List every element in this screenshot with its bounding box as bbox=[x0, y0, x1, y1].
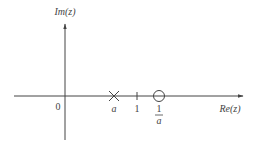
unit-tick-label: 1 bbox=[135, 103, 140, 114]
zero-label-denominator: a bbox=[157, 115, 162, 126]
pole-label: a bbox=[112, 103, 117, 114]
zero-label-numerator: 1 bbox=[157, 103, 162, 114]
real-axis-label: Re(z) bbox=[218, 103, 241, 115]
z-plane-diagram: Im(z) Re(z) 0 a 1 1 a bbox=[0, 0, 265, 143]
imaginary-axis-label: Im(z) bbox=[53, 6, 76, 18]
origin-label: 0 bbox=[56, 101, 61, 112]
